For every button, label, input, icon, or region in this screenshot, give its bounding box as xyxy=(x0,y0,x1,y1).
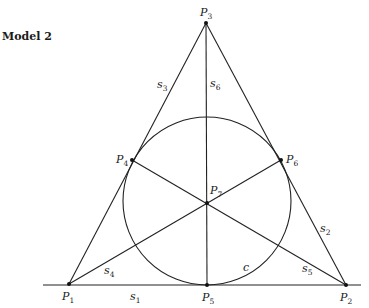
line-label-s4: s4 xyxy=(104,264,115,279)
point-label-p2: P2 xyxy=(339,291,352,306)
point-p3-dot xyxy=(204,21,208,25)
point-p7-dot xyxy=(205,201,209,205)
line-s6 xyxy=(206,23,207,285)
point-label-p4: P4 xyxy=(115,153,128,168)
point-p5-dot xyxy=(205,283,209,287)
point-label-p1: P1 xyxy=(61,290,74,305)
point-label-p5: P5 xyxy=(201,291,214,306)
point-p2-dot xyxy=(344,283,348,287)
point-label-p3: P3 xyxy=(199,6,212,21)
circle-label-c: c xyxy=(243,261,249,274)
line-label-s1: s1 xyxy=(130,290,140,305)
point-p1-dot xyxy=(67,282,71,286)
line-s5 xyxy=(132,160,346,285)
line-label-s6: s6 xyxy=(210,77,221,92)
line-label-s2: s2 xyxy=(320,222,331,237)
point-label-p6: P6 xyxy=(285,153,298,168)
line-s4 xyxy=(69,160,281,284)
point-p6-dot xyxy=(279,158,283,162)
line-label-s3: s3 xyxy=(157,78,168,93)
fano-plane-diagram: P1P2P3P4P5P6P7s1s2s3s4s5s6c xyxy=(0,0,369,308)
point-p4-dot xyxy=(130,158,134,162)
point-label-p7: P7 xyxy=(209,184,222,199)
